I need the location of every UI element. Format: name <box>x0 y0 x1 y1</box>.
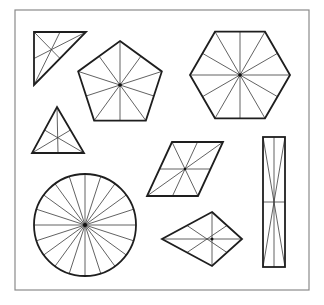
symmetry-line <box>240 75 278 97</box>
symmetry-line <box>85 225 101 274</box>
symmetry-line <box>120 85 146 121</box>
median-line <box>34 32 60 59</box>
shapes-group <box>32 32 290 276</box>
symmetry-line <box>85 225 134 241</box>
symmetry-line <box>44 195 85 225</box>
center-point <box>184 168 187 171</box>
symmetry-line <box>85 184 115 225</box>
symmetry-line <box>203 75 241 97</box>
symmetry-line <box>55 225 85 266</box>
equilateral-triangle-shape <box>32 107 84 153</box>
rectangle-shape <box>263 137 285 267</box>
symmetry-line <box>55 184 85 225</box>
symmetry-line <box>85 225 126 255</box>
symmetry-line <box>215 75 240 118</box>
symmetry-line <box>94 85 120 121</box>
symmetry-line <box>99 56 120 85</box>
symmetry-line <box>36 209 85 225</box>
symmetry-line <box>203 53 241 75</box>
symmetry-line <box>69 225 85 274</box>
symmetry-line <box>85 195 126 225</box>
symmetry-line <box>120 85 154 96</box>
symmetry-line <box>120 71 162 85</box>
circle-shape <box>34 174 136 276</box>
kite-shape <box>162 212 242 266</box>
symmetry-line <box>85 225 115 266</box>
symmetry-line <box>85 209 134 225</box>
symmetry-line <box>120 56 141 85</box>
symmetry-line <box>85 176 101 225</box>
symmetry-line <box>44 225 85 255</box>
symmetry-line <box>240 75 265 118</box>
symmetry-line <box>215 32 240 75</box>
center-point <box>211 238 214 241</box>
pentagon-shape <box>78 41 162 121</box>
symmetry-line <box>86 85 120 96</box>
symmetry-worksheet <box>0 0 324 305</box>
center-point <box>83 223 87 227</box>
center-point <box>118 83 122 87</box>
symmetry-line <box>69 176 85 225</box>
symmetry-line <box>78 71 120 85</box>
symmetry-line <box>240 53 278 75</box>
symmetry-line <box>57 107 58 153</box>
median-line <box>34 32 86 59</box>
right-triangle-shape <box>34 32 86 85</box>
hexagon-shape <box>190 32 290 119</box>
symmetry-line <box>36 225 85 241</box>
parallelogram-shape <box>147 142 223 196</box>
center-point <box>238 73 242 77</box>
median-line <box>34 32 60 85</box>
symmetry-line <box>240 32 265 75</box>
